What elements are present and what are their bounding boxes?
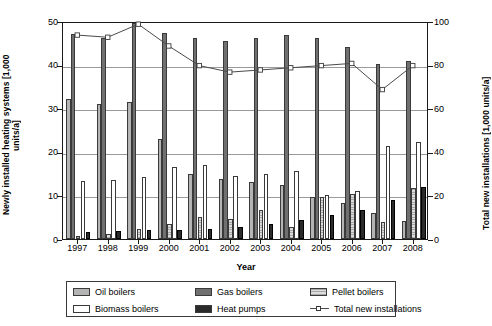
total-installations-line xyxy=(62,22,428,240)
legend-label-oil-boilers: Oil boilers xyxy=(95,287,135,297)
x-tick-label-2008: 2008 xyxy=(393,243,433,253)
y-tick-label-right: 100 xyxy=(434,18,460,27)
swatch-pellet-icon xyxy=(310,288,327,296)
line-marker-icon xyxy=(310,305,329,313)
legend-label-biomass-boilers: Biomass boilers xyxy=(95,304,159,314)
y-tick-mark-right xyxy=(428,22,433,23)
x-axis-title: Year xyxy=(0,262,492,272)
swatch-biomass-icon xyxy=(73,305,90,313)
y-tick-label-left: 30 xyxy=(32,105,58,114)
y-tick-label-left: 40 xyxy=(32,61,58,70)
y-tick-label-right: 80 xyxy=(434,61,460,70)
line-point-2005 xyxy=(319,63,323,67)
y-tick-label-left: 0 xyxy=(32,236,58,245)
y-tick-label-right: 20 xyxy=(434,192,460,201)
legend-label-gas-boilers: Gas boilers xyxy=(217,287,263,297)
legend-item-heat-pumps: Heat pumps xyxy=(195,304,310,314)
y-tick-mark-right xyxy=(428,240,433,241)
y-tick-label-left: 10 xyxy=(32,192,58,201)
legend-item-oil-boilers: Oil boilers xyxy=(73,287,195,297)
line-point-1998 xyxy=(106,35,110,39)
legend-item-total-new-installations: Total new installations xyxy=(310,304,422,314)
line-point-2002 xyxy=(228,70,232,74)
line-point-2006 xyxy=(350,61,354,65)
legend-label-pellet-boilers: Pellet boilers xyxy=(332,287,384,297)
line-point-2004 xyxy=(289,66,293,70)
y-axis-title-left: Newly installed heating systems [1,000 u… xyxy=(1,40,21,230)
y-tick-label-right: 60 xyxy=(434,105,460,114)
chart-figure: Newly installed heating systems [1,000 u… xyxy=(0,0,492,326)
y-tick-label-right: 40 xyxy=(434,148,460,157)
legend-item-biomass-boilers: Biomass boilers xyxy=(73,304,195,314)
line-point-2000 xyxy=(167,44,171,48)
y-tick-label-right: 0 xyxy=(434,236,460,245)
legend-item-pellet-boilers: Pellet boilers xyxy=(310,287,422,297)
legend-item-gas-boilers: Gas boilers xyxy=(195,287,310,297)
y-tick-mark-right xyxy=(428,196,433,197)
swatch-gas-icon xyxy=(195,288,212,296)
y-tick-label-left: 50 xyxy=(32,18,58,27)
y-tick-label-left: 20 xyxy=(32,148,58,157)
line-point-2001 xyxy=(197,63,201,67)
line-point-2007 xyxy=(380,87,384,91)
line-point-2003 xyxy=(258,68,262,72)
line-point-2008 xyxy=(411,63,415,67)
legend-label-heat-pumps: Heat pumps xyxy=(217,304,266,314)
legend-label-total-new-installations: Total new installations xyxy=(334,304,422,314)
y-tick-mark-right xyxy=(428,109,433,110)
swatch-oil-icon xyxy=(73,288,90,296)
line-point-1997 xyxy=(75,33,79,37)
y-tick-mark-right xyxy=(428,153,433,154)
swatch-heatpumps-icon xyxy=(195,305,212,313)
chart-legend: Oil boilers Gas boilers Pellet boilers B… xyxy=(66,281,396,317)
y-axis-title-right: Total new installations [1,000 units/a] xyxy=(481,58,491,248)
line-point-1999 xyxy=(136,22,140,26)
total-installations-polyline xyxy=(77,24,413,89)
y-tick-mark-right xyxy=(428,66,433,67)
